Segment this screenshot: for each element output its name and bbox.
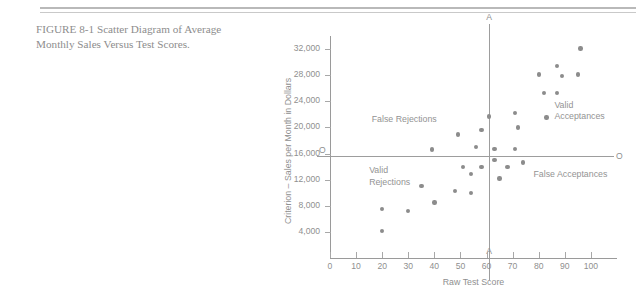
x-tick	[591, 252, 592, 258]
scatter-point	[487, 114, 491, 118]
scatter-point	[479, 128, 483, 132]
x-tick	[382, 252, 383, 258]
scatter-point	[505, 165, 509, 169]
scatter-point	[461, 165, 465, 169]
header-rule-thick	[40, 7, 636, 9]
x-tick	[513, 252, 514, 258]
scatter-point	[430, 147, 434, 151]
scatter-point	[516, 125, 520, 129]
scatter-point	[479, 165, 483, 169]
scatter-point	[555, 91, 559, 95]
scatter-point	[432, 200, 436, 204]
y-tick-label: 32,000	[262, 43, 320, 53]
y-tick	[325, 49, 331, 50]
y-axis-title: Criterion – Sales per Month in Dollars	[283, 63, 293, 239]
quadrant-label-valid-acceptances: Valid Acceptances	[554, 100, 604, 123]
criterion-cutoff-reference-line	[317, 156, 614, 157]
scatter-figure: A A O O False Rejections Valid Acceptanc…	[262, 18, 644, 305]
y-axis-line	[330, 36, 331, 258]
scatter-point	[380, 229, 384, 233]
x-tick	[408, 252, 409, 258]
scatter-point	[492, 147, 496, 151]
y-tick	[325, 232, 331, 233]
scatter-point	[497, 176, 501, 180]
scatter-point	[469, 172, 473, 176]
cut-score-label-bottom: A	[482, 246, 496, 256]
x-tick	[539, 252, 540, 258]
scatter-point	[544, 115, 548, 119]
scatter-point	[513, 147, 517, 151]
quadrant-label-false-rejections: False Rejections	[372, 114, 437, 126]
scatter-point	[453, 189, 457, 193]
y-tick	[325, 180, 331, 181]
scatter-point	[560, 74, 564, 78]
y-tick	[325, 127, 331, 128]
y-tick	[325, 206, 331, 207]
scatter-point	[578, 46, 582, 50]
scatter-point	[576, 72, 580, 76]
header-rule-thin	[40, 12, 636, 13]
x-tick	[356, 252, 357, 258]
x-tick	[330, 252, 331, 258]
y-tick	[325, 154, 331, 155]
x-tick	[434, 252, 435, 258]
x-tick	[487, 252, 488, 258]
figure-caption-line-1: FIGURE 8-1 Scatter Diagram of Average	[36, 23, 221, 35]
scatter-point	[555, 64, 559, 68]
y-tick	[325, 101, 331, 102]
cut-score-reference-line	[489, 24, 490, 280]
x-axis-line	[330, 258, 617, 259]
scatter-point	[406, 209, 410, 213]
x-tick	[565, 252, 566, 258]
quadrant-label-valid-rejections: Valid Rejections	[369, 165, 410, 188]
figure-caption-line-2: Monthly Sales Versus Test Scores.	[36, 37, 242, 52]
scatter-point	[542, 91, 546, 95]
plot-area: A A O O False Rejections Valid Acceptanc…	[262, 18, 644, 305]
x-axis-title: Raw Test Score	[330, 277, 617, 287]
cut-score-label-top: A	[482, 12, 496, 22]
x-tick	[460, 252, 461, 258]
scatter-point	[513, 111, 517, 115]
figure-caption: FIGURE 8-1 Scatter Diagram of Average Mo…	[36, 22, 242, 52]
quadrant-label-false-acceptances: False Acceptances	[534, 169, 608, 181]
scatter-point	[419, 184, 423, 188]
scatter-point	[521, 160, 525, 164]
scatter-point	[537, 72, 541, 76]
y-tick	[325, 75, 331, 76]
scatter-point	[469, 191, 473, 195]
scatter-point	[380, 207, 384, 211]
criterion-label-right: O	[616, 151, 623, 161]
scatter-point	[492, 158, 496, 162]
x-tick-label: 100	[576, 261, 606, 271]
scatter-point	[456, 132, 460, 136]
scatter-point	[474, 145, 478, 149]
